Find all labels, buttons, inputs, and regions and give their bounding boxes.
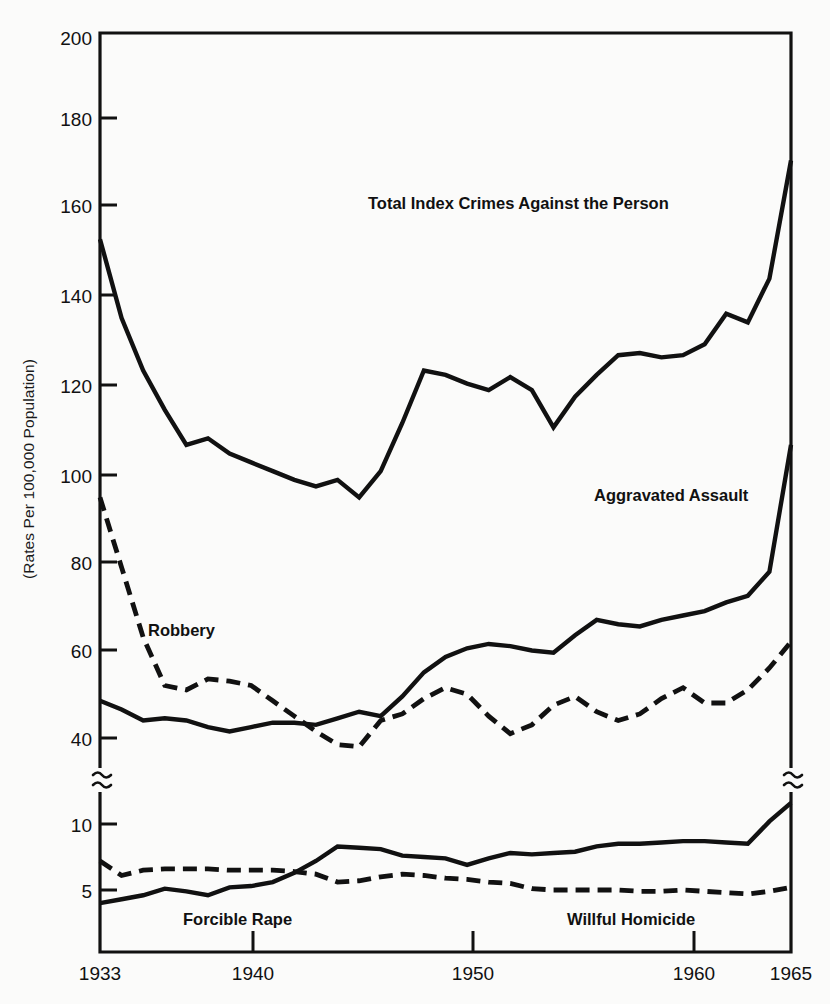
chart-canvas: 200 180 160 140 120 100 80 60 40 10 5 (0, 0, 830, 1004)
y-tick-label-180: 180 (60, 109, 92, 130)
data-series-group (100, 161, 791, 904)
x-axis-ticks (253, 931, 694, 952)
y-axis-break-right (784, 768, 802, 792)
y-axis-break-left (93, 768, 111, 792)
y-tick-label-120: 120 (60, 376, 92, 397)
crime-rates-line-chart: (Rates Per 100,000 Population) 200 180 1… (0, 0, 830, 1004)
y-tick-label-5: 5 (81, 881, 92, 902)
x-tick-label-1933: 1933 (79, 963, 121, 984)
y-tick-label-80: 80 (71, 553, 92, 574)
series-label-forcible-rape: Forcible Rape (183, 910, 292, 928)
series-label-robbery: Robbery (148, 621, 216, 639)
y-tick-label-60: 60 (71, 641, 92, 662)
series-label-total-index: Total Index Crimes Against the Person (368, 194, 669, 212)
x-tick-label-1960: 1960 (673, 963, 715, 984)
y-tick-label-160: 160 (60, 196, 92, 217)
y-tick-label-10: 10 (71, 815, 92, 836)
chart-page: (Rates Per 100,000 Population) 200 180 1… (0, 0, 830, 1004)
series-label-aggravated-assault: Aggravated Assault (594, 486, 749, 504)
series-label-willful-homicide: Willful Homicide (567, 910, 695, 928)
x-tick-label-1965: 1965 (770, 963, 812, 984)
y-tick-label-140: 140 (60, 286, 92, 307)
y-tick-label-40: 40 (71, 729, 92, 750)
series-line-willful-homicide (100, 861, 791, 894)
y-tick-label-200: 200 (60, 28, 92, 49)
x-tick-label-1950: 1950 (452, 963, 494, 984)
x-tick-label-1940: 1940 (232, 963, 274, 984)
y-tick-label-100: 100 (60, 466, 92, 487)
